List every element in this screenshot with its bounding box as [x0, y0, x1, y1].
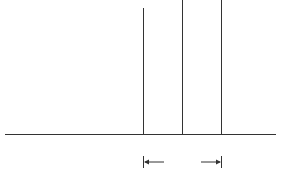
arrowhead-left — [144, 160, 149, 165]
arrowhead-right — [216, 160, 221, 165]
normal-curve-diagram — [0, 0, 289, 186]
